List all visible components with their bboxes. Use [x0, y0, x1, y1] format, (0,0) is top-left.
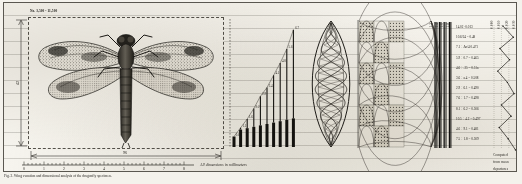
braid-diamond [320, 105, 341, 112]
table-row: 2.9 ÷ 6.1 = 0.490 [456, 86, 479, 90]
braid-diamond [326, 126, 336, 133]
table-row: 4.6 ÷ 9.1 = 0.481 [456, 127, 479, 131]
width-dimension-label: 96 [123, 150, 127, 155]
checker-cell [389, 126, 404, 147]
checker-cell [389, 105, 404, 126]
step-bar [252, 127, 255, 147]
ruler-tick-label: 3 [83, 167, 85, 171]
step-bar-value: 2.2 [256, 105, 260, 109]
ruler-tick-label: 7 [163, 167, 165, 171]
zigzag-point [510, 115, 511, 116]
checker-cell [374, 42, 389, 63]
table-row: 7.6 ÷ 1.7 = 0.498 [456, 96, 479, 100]
braid-diamond [318, 91, 343, 98]
step-bar [266, 124, 269, 147]
dragonfly-specimen-drawing [28, 17, 224, 149]
zigzag-tick-label: 0.010 [498, 20, 503, 28]
corner-note-3: departures [493, 167, 509, 172]
note-line-1: No. 3,500 - 11,500 [30, 9, 69, 14]
checker-cell [374, 105, 389, 126]
zigzag-point [502, 25, 503, 26]
step-bar-value: 4.1 [275, 71, 279, 75]
ascending-step-chart: 0.61.11.62.22.93.44.14.85.66.7 [228, 17, 302, 151]
zigzag-point [507, 138, 508, 139]
zigzag-point [509, 59, 510, 60]
zigzag-tick-label: 0.030 [512, 20, 517, 28]
step-bar [233, 137, 236, 148]
table-row: 8.1 ÷ 6.2 = 0.506 [456, 107, 479, 111]
bundle-label: 1.6 [441, 23, 446, 28]
table-row: 10.6/24 = 0.48 [456, 35, 475, 39]
table-row: 5.9 ÷ 0.7 = 0.465 [456, 56, 479, 60]
checker-cell [374, 84, 389, 105]
corner-note-2: from mean [493, 160, 509, 165]
braided-vesica-figure [304, 19, 358, 149]
zigzag-point [513, 37, 514, 38]
zigzag-point [513, 93, 514, 94]
step-bar [285, 120, 288, 147]
braid-diamond [322, 49, 340, 56]
step-bar [272, 123, 275, 147]
braid-diamond [318, 77, 344, 84]
checker-cell [374, 126, 389, 147]
checker-cell [359, 21, 374, 42]
checker-cell [389, 21, 404, 42]
checker-cell [359, 105, 374, 126]
braid-diamond [319, 63, 342, 70]
corner-note-1: Computed [493, 153, 509, 158]
step-bar-value: 5.6 [289, 45, 293, 49]
table-row: 4.6 ÷ .25 = 0.51a [456, 66, 478, 70]
measurement-table: 14.02 ·0.01310.6/24 = 0.487.1 ÷ Δo/4 0.4… [456, 25, 494, 149]
drawing-sheet: No. 3,500 - 11,500 Scale 0.08 = 1 cm Pla… [3, 2, 517, 172]
ruler-tick-label: 1 [43, 167, 45, 171]
table-row: 7.5 ÷ 1.8 = 0.509 [456, 137, 479, 141]
zigzag-point [515, 149, 516, 150]
step-bar-value: 1.6 [249, 115, 253, 119]
table-row: 3.6 ÷ a.4 = 0.508 [456, 76, 478, 80]
braid-diamond [326, 35, 336, 42]
height-dimension-label: 42 [15, 81, 20, 85]
step-bar-value: 6.7 [295, 26, 299, 30]
step-bar-value: 3.4 [269, 84, 273, 88]
ruler-tick-label: 6 [143, 167, 145, 171]
checker-cell [389, 84, 404, 105]
step-bar [246, 128, 249, 147]
zigzag-point [497, 70, 498, 71]
checker-arc-figure [356, 19, 434, 149]
bundle-label: 1.8 [446, 23, 451, 28]
step-bar [292, 118, 295, 147]
figure-caption: Fig. 2. Wing venation and dimensional an… [4, 174, 112, 178]
zigzag-axis-labels: 0.0000.0100.0200.030 [493, 11, 517, 25]
zigzag-point [499, 48, 500, 49]
ruler-tick-label: 0 [23, 167, 25, 171]
checker-cell [389, 42, 404, 63]
zigzag-point [507, 82, 508, 83]
units-note: All dimensions in millimeters [199, 162, 247, 167]
corner-note: Computed from mean departures [493, 153, 509, 167]
step-bar [259, 125, 262, 147]
ruler-scale: 012345678 All dimensions in millimeters [18, 159, 224, 170]
plate-root: No. 3,500 - 11,500 Scale 0.08 = 1 cm Pla… [0, 0, 522, 184]
bundle-label: 1.2 [429, 23, 434, 28]
ruler-tick-label: 5 [123, 167, 125, 171]
table-row: 10.5 ÷ 4.2 = 0.497 [456, 117, 480, 121]
step-bar-value: 4.8 [282, 59, 286, 63]
step-bar [279, 121, 282, 147]
ruler-tick-label: 8 [183, 167, 185, 171]
bundle-label: 1.4 [435, 23, 440, 28]
zigzag-point [499, 127, 500, 128]
braid-diamond [318, 84, 344, 91]
checker-cell [374, 21, 389, 42]
ruler-tick-label: 2 [63, 167, 65, 171]
deviation-zigzag-plot [492, 23, 517, 151]
zigzag-point [501, 104, 502, 105]
height-dimension-line: 42 [14, 17, 28, 149]
zigzag-tick-label: 0.020 [505, 20, 510, 28]
ruler-tick-label: 4 [103, 167, 105, 171]
checker-cell [359, 84, 374, 105]
vertical-line-bundle [432, 21, 454, 149]
table-row: 7.1 ÷ Δo/4 0.471 [456, 45, 478, 49]
table-row: 14.02 ·0.013 [456, 25, 473, 29]
zigzag-tick-label: 0.000 [490, 20, 495, 28]
checker-cell [389, 63, 404, 84]
